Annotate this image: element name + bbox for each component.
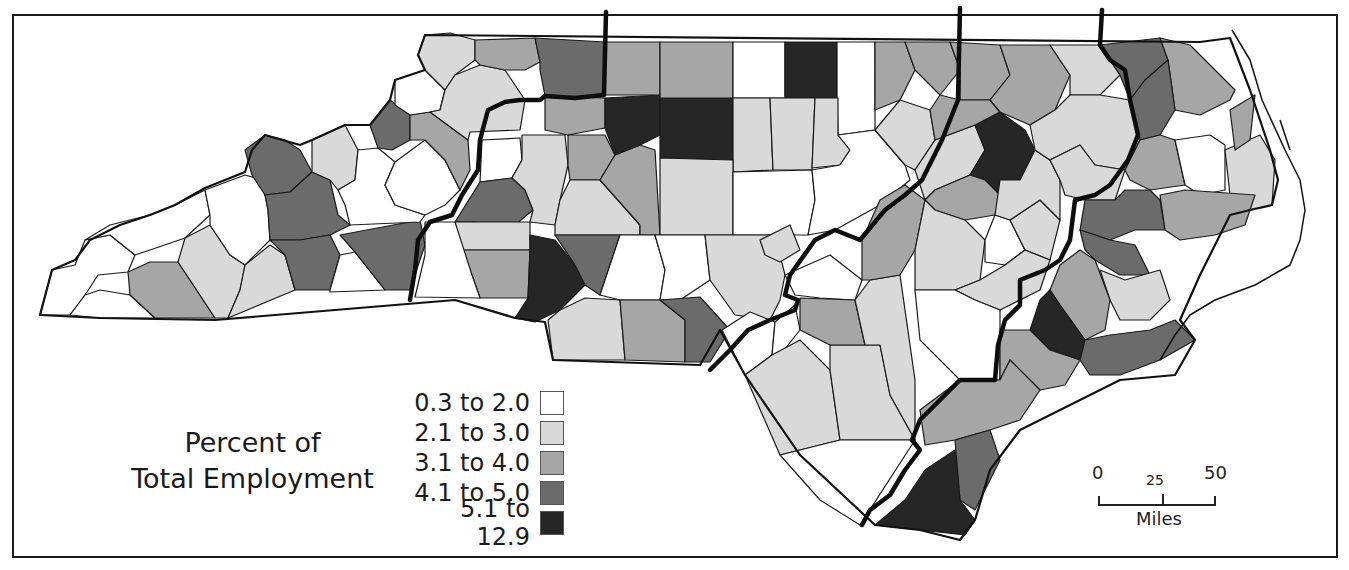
- legend-item: 5.1 to 12.9: [400, 508, 564, 538]
- legend-label: 3.1 to 4.0: [400, 449, 530, 477]
- legend-label: 2.1 to 3.0: [400, 419, 530, 447]
- scale-tick-50: 50: [1204, 462, 1227, 483]
- scale-tick-0: 0: [1092, 462, 1103, 483]
- legend-swatch: [540, 481, 564, 505]
- scale-bar-line: [1098, 496, 1216, 506]
- legend-label: 5.1 to 12.9: [400, 495, 530, 551]
- legend-label: 0.3 to 2.0: [400, 389, 530, 417]
- legend-item: 0.3 to 2.0: [400, 388, 564, 418]
- legend-swatch: [540, 511, 564, 535]
- map-title: Percent of Total Employment: [130, 425, 375, 497]
- legend-swatch: [540, 451, 564, 475]
- legend-item: 2.1 to 3.0: [400, 418, 564, 448]
- scale-unit: Miles: [1136, 508, 1182, 529]
- legend-swatch: [540, 421, 564, 445]
- scale-bar-midtick: [1162, 494, 1164, 504]
- map-title-line1: Percent of: [130, 425, 375, 461]
- legend-item: 3.1 to 4.0: [400, 448, 564, 478]
- scale-tick-25: 25: [1146, 472, 1164, 488]
- scale-bar: 0 25 50 Miles: [1088, 462, 1228, 532]
- legend-swatch: [540, 391, 564, 415]
- legend: 0.3 to 2.0 2.1 to 3.0 3.1 to 4.0 4.1 to …: [400, 388, 564, 538]
- map-title-line2: Total Employment: [130, 461, 375, 497]
